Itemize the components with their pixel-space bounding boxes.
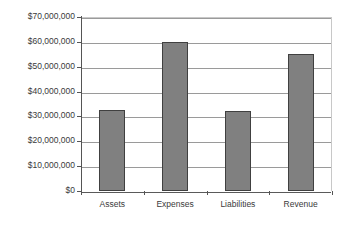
y-axis-tick — [77, 92, 81, 93]
y-axis-label: $20,000,000 — [3, 136, 75, 145]
y-axis-label: $40,000,000 — [3, 87, 75, 96]
x-axis-tick — [207, 191, 208, 195]
bar-slot — [269, 17, 332, 191]
x-axis-tick — [332, 191, 333, 195]
bar-slot — [144, 17, 207, 191]
bar[interactable] — [162, 42, 188, 191]
bar-slot — [81, 17, 144, 191]
y-axis-tick — [77, 166, 81, 167]
y-axis-label: $60,000,000 — [3, 37, 75, 46]
y-axis-line — [81, 16, 82, 192]
y-axis-label: $10,000,000 — [3, 161, 75, 170]
y-axis-label: $50,000,000 — [3, 62, 75, 71]
bar-chart: $0$10,000,000$20,000,000$30,000,000$40,0… — [0, 0, 347, 229]
x-axis-label: Liabilities — [207, 199, 270, 209]
x-axis-label: Revenue — [269, 199, 332, 209]
y-axis-tick — [77, 141, 81, 142]
bar[interactable] — [225, 111, 251, 191]
bar[interactable] — [288, 54, 314, 191]
x-axis-tick — [144, 191, 145, 195]
bar-slot — [207, 17, 270, 191]
bars-layer — [81, 17, 332, 191]
bar[interactable] — [99, 110, 125, 191]
y-axis-tick — [77, 17, 81, 18]
x-axis-label: Assets — [81, 199, 144, 209]
y-axis-tick — [77, 116, 81, 117]
x-axis-tick — [81, 191, 82, 195]
x-axis-tick — [269, 191, 270, 195]
y-axis-label: $30,000,000 — [3, 111, 75, 120]
x-axis-label: Expenses — [144, 199, 207, 209]
y-axis-tick — [77, 42, 81, 43]
y-axis-tick — [77, 67, 81, 68]
y-axis-label: $70,000,000 — [3, 12, 75, 21]
y-axis-label: $0 — [3, 186, 75, 195]
